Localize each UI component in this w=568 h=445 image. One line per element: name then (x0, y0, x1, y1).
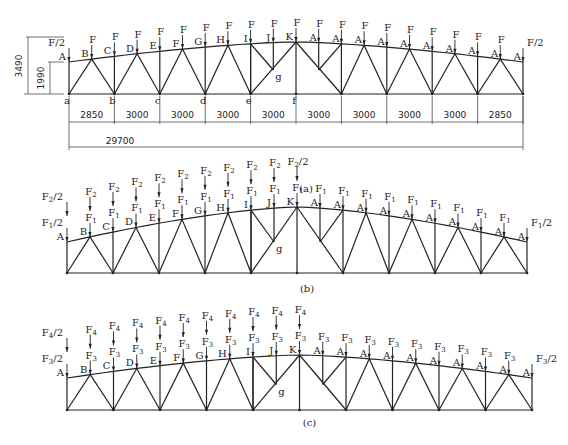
node-label-a: A (310, 197, 319, 208)
node-label-a: A (377, 36, 386, 47)
span-dimension: 3000 (216, 110, 239, 120)
load-label-lower: F3 (318, 331, 329, 344)
node-label-g: g (278, 386, 285, 397)
node-label-e: E (149, 212, 156, 223)
load-label-lower: F1 (315, 183, 326, 196)
node-label-a: A (490, 48, 499, 59)
load-label-lower: F1 (200, 191, 211, 204)
truss-c: gAF3/2BF3CF3DF3EF3FF3GF3HF3IF3JF3KF3AF3A… (42, 304, 557, 428)
load-label-lower: F3 (481, 346, 492, 359)
load-label-lower: F3 (86, 350, 97, 363)
load-label-upper: F4 (86, 324, 98, 337)
node-label-a: A (522, 367, 531, 378)
load-label-lower: F (203, 22, 210, 33)
node-label-a: A (517, 231, 526, 242)
load-label-lower: F (430, 26, 437, 37)
caption: (c) (303, 417, 317, 428)
node-label-a: A (494, 226, 503, 237)
load-label-lower: F1 (338, 185, 349, 198)
node-label-a: A (513, 51, 522, 62)
node-label-g: G (194, 205, 202, 216)
load-label-lower: F (248, 19, 255, 30)
node-label-i: I (244, 199, 248, 210)
load-label-upper: F4/2 (42, 327, 63, 340)
load-label-lower: F (362, 20, 369, 31)
load-label-upper: F2 (269, 157, 280, 170)
load-label-lower: F3 (132, 343, 143, 356)
load-label-lower: F (475, 31, 482, 42)
load-label-upper: F2 (108, 181, 119, 194)
caption: (b) (300, 283, 314, 294)
load-label-upper: F2 (131, 176, 142, 189)
node-label-g: G (196, 350, 204, 361)
load-label-upper: F2/2 (42, 191, 63, 204)
load-label-lower: F3 (365, 334, 376, 347)
load-label-upper: F2 (85, 186, 96, 199)
node-label-c: C (103, 360, 111, 371)
load-label-lower: F (112, 31, 119, 42)
load-label-lower: F (180, 24, 187, 35)
load-label-lower: F3 (179, 338, 190, 351)
node-label-a: A (354, 34, 363, 45)
load-label-lower: F (157, 26, 164, 37)
truss-b: gAF1/2BF1CF1DF1EF1FF1GF1HF1IF1JF1KF1AF1A… (42, 156, 552, 294)
height-end-dimension: 1990 (36, 66, 46, 89)
node-label-a: A (359, 348, 368, 359)
node-label-d: D (125, 216, 133, 227)
node-label-g: G (194, 36, 202, 47)
node-label-b: B (81, 48, 88, 59)
span-dimension: 3000 (126, 110, 149, 120)
span-dimension: 3000 (262, 110, 285, 120)
node-label-g: g (276, 243, 283, 254)
load-label-lower: F3 (109, 346, 120, 359)
node-label-a: A (56, 367, 65, 378)
load-label-upper: F2 (177, 168, 188, 181)
node-label-b: B (80, 364, 87, 375)
node-label-j: J (265, 32, 270, 43)
node-label-a: A (429, 355, 438, 366)
load-label-lower: F1 (407, 194, 418, 207)
span-dimension: 3000 (443, 110, 466, 120)
node-label-a: A (499, 364, 508, 375)
span-dimension: 2850 (80, 110, 103, 120)
node-label-f: F (173, 38, 180, 49)
load-label-upper: F2 (223, 162, 234, 175)
node-label-a: A (467, 45, 476, 56)
load-label-upper: F4 (179, 312, 191, 325)
total-span-dimension: 29700 (106, 136, 135, 146)
node-label-a: A (425, 212, 434, 223)
node-label-a: A (422, 40, 431, 51)
load-label-lower: F (498, 34, 505, 45)
load-label-lower: F (339, 19, 346, 30)
node-label-a: A (399, 38, 408, 49)
height-total-dimension: 3490 (14, 54, 24, 77)
load-label-lower: F3 (248, 332, 259, 345)
load-label-lower: F1 (223, 188, 234, 201)
load-label-lower: F3 (155, 341, 166, 354)
load-label-lower: F1 (131, 202, 142, 215)
load-label-lower: F (452, 29, 459, 40)
load-label-lower: F (135, 29, 142, 40)
node-label-k: K (287, 196, 295, 207)
load-label-upper: F4 (202, 310, 214, 323)
truss-diagram-canvas: gAF/2BFCFDFEFFFGFHFIFJFKFAFAFAFAFAFAFAFA… (0, 0, 568, 445)
load-label-lower: F1 (361, 188, 372, 201)
node-label-d: d (200, 95, 207, 106)
node-label-h: H (216, 34, 225, 45)
load-label-lower: F (225, 20, 232, 31)
span-dimension: 3000 (398, 110, 421, 120)
node-label-a: A (336, 346, 345, 357)
load-label-upper: F2/2 (287, 156, 308, 169)
load-label-lower: F (407, 24, 414, 35)
node-label-c: C (102, 221, 110, 232)
node-label-a: A (471, 221, 480, 232)
node-label-a: A (56, 231, 65, 242)
node-label-a: A (333, 199, 342, 210)
node-label-a: A (445, 43, 454, 54)
load-label-upper: F2 (200, 165, 211, 178)
load-label-lower: F3 (504, 350, 515, 363)
load-label-lower: F3 (295, 330, 306, 343)
load-label-lower: F (384, 22, 391, 33)
load-label-lower: F3 (272, 331, 283, 344)
load-label-lower: F1 (246, 185, 257, 198)
